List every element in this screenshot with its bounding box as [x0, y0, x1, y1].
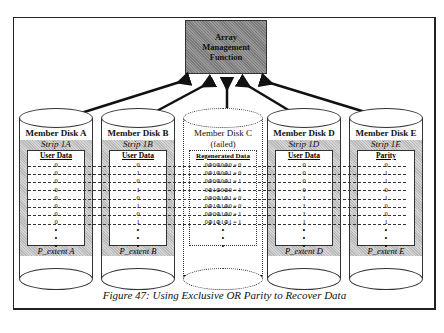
disk-title: Member Disk B — [101, 128, 175, 139]
bit-value: 0 — [110, 194, 166, 202]
disk-top — [101, 108, 175, 128]
member-disk-c-failed: Member Disk C (failed) Regenerated Data … — [183, 108, 263, 296]
extent-label: P_extent B — [101, 246, 175, 256]
data-header: Parity — [358, 151, 414, 161]
strip-label: Strip 1D — [267, 139, 341, 149]
disk-top — [19, 108, 93, 128]
stripe-line — [28, 190, 406, 191]
strip-data-box: User Data 0 1 0 1 0 1 0 1 ••• — [109, 150, 167, 246]
failed-label: (failed) — [183, 139, 263, 149]
regenerated-data-box: Regenerated Data 0⊕0⊕0⊕0 = 0 0⊕1⊕0⊕1 = 0… — [189, 150, 257, 246]
strip-label: Strip 1B — [101, 139, 175, 149]
stripe-line — [28, 166, 406, 167]
strip-data-box: User Data 0 0 0 0 1 1 1 1 ••• — [275, 150, 333, 246]
disk-bottom — [267, 268, 341, 290]
stripe-line — [28, 215, 406, 216]
parity-bit: 1 — [358, 194, 414, 202]
disk-title: Member Disk C — [183, 128, 263, 139]
data-header: User Data — [28, 151, 84, 161]
member-disk-a: Member Disk A Strip 1A User Data 0 0 0 0… — [19, 108, 93, 296]
extent-label: P_extent A — [19, 246, 93, 256]
stripe-line — [28, 207, 406, 208]
stripe-line — [28, 182, 406, 183]
disk-title: Member Disk A — [19, 128, 93, 139]
bit-value: 0 — [28, 194, 84, 202]
member-disk-b: Member Disk B Strip 1B User Data 0 1 0 1… — [101, 108, 175, 296]
strip-data-box: User Data 0 0 0 0 0 0 0 0 ••• — [27, 150, 85, 246]
disk-top — [267, 108, 341, 128]
disk-bottom — [349, 268, 423, 290]
data-header: User Data — [110, 151, 166, 161]
member-disk-e: Member Disk E Strip 1E Parity 0 1 1 0 1 … — [349, 108, 423, 296]
disk-top — [349, 108, 423, 128]
extent-label: P_extent D — [267, 246, 341, 256]
stripe-line — [28, 199, 406, 200]
disk-title: Member Disk D — [267, 128, 341, 139]
ellipsis-dots: ••• — [190, 227, 256, 251]
data-header: User Data — [276, 151, 332, 161]
bit-value: 1 — [276, 194, 332, 202]
stripe-line — [28, 174, 406, 175]
xor-expression: 0⊕0⊕1⊕1 = 0 — [190, 194, 256, 202]
disk-bottom — [19, 268, 93, 290]
strip-label: Strip 1E — [349, 139, 423, 149]
data-header: Regenerated Data — [190, 151, 256, 161]
disk-top — [183, 108, 263, 128]
disk-title: Member Disk E — [349, 128, 423, 139]
figure-caption: Figure 47: Using Exclusive OR Parity to … — [13, 289, 436, 301]
disk-bottom — [101, 268, 175, 290]
extent-label: P_extent E — [349, 246, 423, 256]
stripe-line — [28, 224, 406, 225]
strip-label: Strip 1A — [19, 139, 93, 149]
member-disk-d: Member Disk D Strip 1D User Data 0 0 0 0… — [267, 108, 341, 296]
parity-data-box: Parity 0 1 1 0 1 0 0 1 ••• — [357, 150, 415, 246]
disk-bottom — [183, 268, 263, 290]
